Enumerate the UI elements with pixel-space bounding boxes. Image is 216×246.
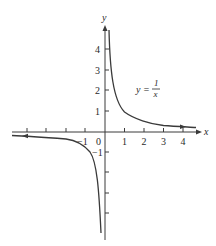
y-tick-label-1: 1 [95, 106, 100, 117]
x-axis-label: x [203, 126, 209, 137]
x-tick-label-0: 0 [96, 136, 101, 147]
x-tick-label-2: 2 [142, 136, 147, 147]
curve-arrow-left-icon [22, 134, 28, 138]
hyperbola-chart: y x −1 0 1 2 3 4 4 3 2 1 −1 y = 1 x [0, 0, 216, 246]
curve-positive-branch [109, 30, 196, 128]
y-tick-label-3: 3 [95, 65, 100, 76]
equation-numerator: 1 [154, 78, 159, 88]
equation-denominator: x [153, 89, 158, 99]
x-tick-label-4: 4 [181, 136, 186, 147]
equation-annotation: y = 1 x [135, 78, 160, 99]
x-tick-label-1: 1 [122, 136, 127, 147]
y-axis-label: y [101, 12, 107, 23]
x-axis-arrow-icon [196, 130, 202, 135]
x-tick-label-3: 3 [161, 136, 166, 147]
y-axis-arrow-icon [103, 25, 108, 31]
y-tick-label-neg1: −1 [92, 147, 103, 158]
equation-lhs: y = [135, 84, 150, 95]
y-tick-label-2: 2 [95, 85, 100, 96]
y-ticks [105, 49, 109, 213]
curve-negative-branch [12, 136, 101, 234]
y-tick-label-4: 4 [95, 44, 100, 55]
x-tick-label-neg1: −1 [77, 136, 88, 147]
